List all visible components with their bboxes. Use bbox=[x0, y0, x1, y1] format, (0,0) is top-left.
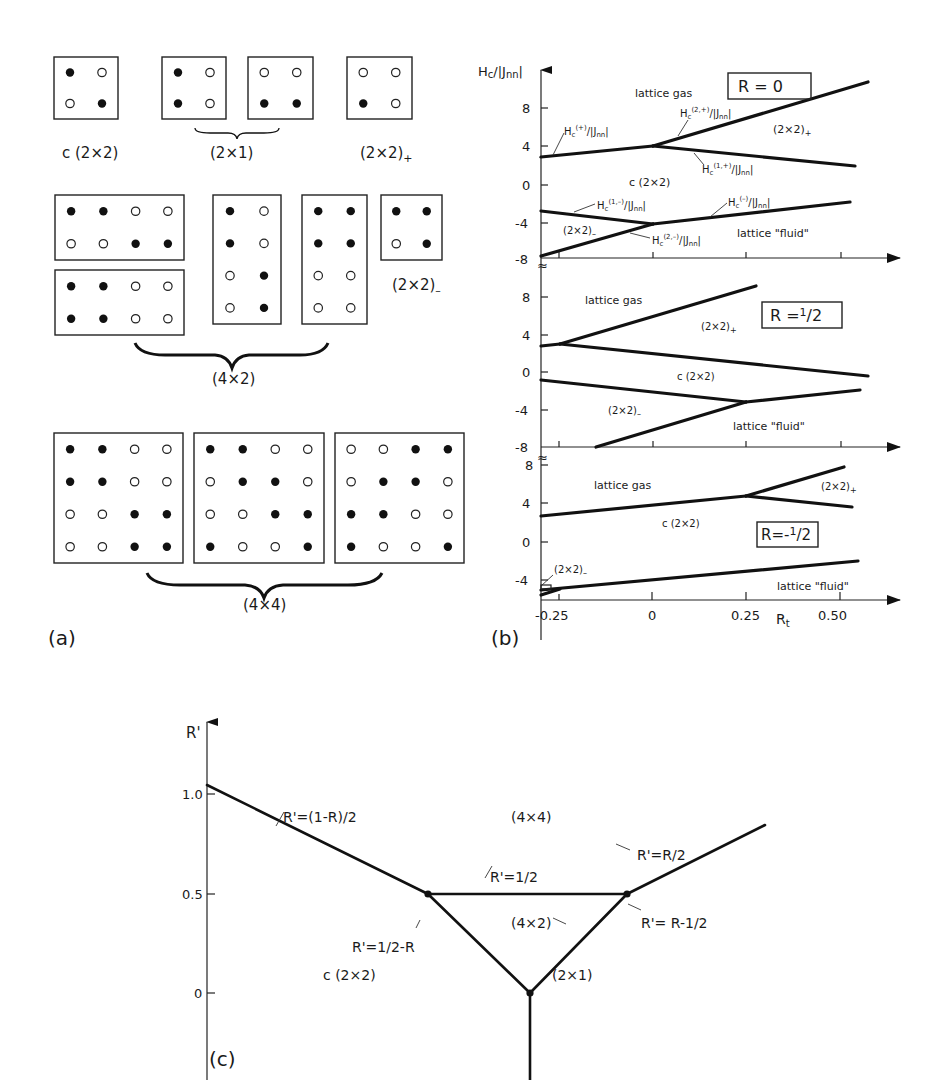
svg-text:lattice gas: lattice gas bbox=[635, 87, 693, 100]
filled-site-icon bbox=[444, 543, 452, 551]
empty-site-icon bbox=[444, 478, 452, 486]
svg-text:Hc(1,–)/|Jnn|: Hc(1,–)/|Jnn| bbox=[597, 198, 646, 213]
empty-site-icon bbox=[98, 510, 106, 518]
svg-text:4: 4 bbox=[522, 328, 530, 343]
filled-site-icon bbox=[347, 543, 355, 551]
svg-text:lattice "fluid": lattice "fluid" bbox=[737, 227, 809, 240]
svg-text:lattice "fluid": lattice "fluid" bbox=[733, 420, 805, 433]
empty-site-icon bbox=[411, 543, 419, 551]
svg-text:Hc(+)/|Jnn|: Hc(+)/|Jnn| bbox=[564, 124, 609, 139]
lattice-box-4x2 bbox=[55, 270, 184, 335]
empty-site-icon bbox=[392, 68, 400, 76]
filled-site-icon bbox=[67, 282, 75, 290]
svg-text:-4: -4 bbox=[515, 573, 528, 588]
filled-site-icon bbox=[347, 510, 355, 518]
svg-text:lattice gas: lattice gas bbox=[594, 479, 652, 492]
empty-site-icon bbox=[163, 478, 171, 486]
empty-site-icon bbox=[239, 510, 247, 518]
empty-site-icon bbox=[206, 68, 214, 76]
brace-4x4 bbox=[147, 573, 382, 598]
empty-site-icon bbox=[164, 315, 172, 323]
svg-text:Hc(2,–)/|Jnn|: Hc(2,–)/|Jnn| bbox=[652, 233, 701, 248]
lattice-box-2x1 bbox=[162, 57, 226, 119]
svg-text:≈: ≈ bbox=[537, 258, 548, 273]
svg-text:8: 8 bbox=[522, 101, 530, 116]
svg-text:8: 8 bbox=[525, 458, 533, 473]
svg-text:R'= R-1/2: R'= R-1/2 bbox=[641, 915, 708, 931]
empty-site-icon bbox=[130, 445, 138, 453]
filled-site-icon bbox=[99, 207, 107, 215]
lattice-box-2x1 bbox=[248, 57, 313, 119]
lattice-box-4x2 bbox=[302, 195, 367, 324]
filled-site-icon bbox=[304, 543, 312, 551]
empty-site-icon bbox=[98, 543, 106, 551]
filled-site-icon bbox=[423, 207, 431, 215]
empty-site-icon bbox=[239, 543, 247, 551]
empty-site-icon bbox=[359, 68, 367, 76]
filled-site-icon bbox=[226, 207, 234, 215]
empty-site-icon bbox=[66, 543, 74, 551]
filled-site-icon bbox=[66, 478, 74, 486]
filled-site-icon bbox=[271, 478, 279, 486]
svg-text:-8: -8 bbox=[515, 252, 528, 267]
label-4x2: (4×2) bbox=[212, 370, 255, 388]
filled-site-icon bbox=[131, 240, 139, 248]
empty-site-icon bbox=[293, 68, 301, 76]
lattice-box-2x2-minus bbox=[381, 195, 442, 260]
svg-text:0.5: 0.5 bbox=[182, 887, 203, 902]
filled-site-icon bbox=[260, 99, 268, 107]
empty-site-icon bbox=[392, 99, 400, 107]
filled-site-icon bbox=[423, 240, 431, 248]
svg-text:0.25: 0.25 bbox=[731, 608, 760, 623]
svg-text:-0.25: -0.25 bbox=[535, 608, 569, 623]
panel-b: Hc/|Jnn| 8 4 0 -4 -8 ≈ R = 0 lattice gas… bbox=[478, 64, 900, 650]
svg-text:lattice gas: lattice gas bbox=[585, 294, 643, 307]
filled-site-icon bbox=[99, 282, 107, 290]
filled-site-icon bbox=[98, 478, 106, 486]
svg-text:-4: -4 bbox=[515, 216, 528, 231]
filled-site-icon bbox=[239, 478, 247, 486]
empty-site-icon bbox=[271, 445, 279, 453]
filled-site-icon bbox=[99, 315, 107, 323]
filled-site-icon bbox=[314, 239, 322, 247]
filled-site-icon bbox=[260, 304, 268, 312]
empty-site-icon bbox=[164, 282, 172, 290]
svg-text:0: 0 bbox=[522, 535, 530, 550]
filled-site-icon bbox=[174, 99, 182, 107]
empty-site-icon bbox=[131, 282, 139, 290]
filled-site-icon bbox=[379, 510, 387, 518]
filled-site-icon bbox=[359, 99, 367, 107]
filled-site-icon bbox=[67, 207, 75, 215]
svg-text:0.50: 0.50 bbox=[818, 608, 847, 623]
svg-text:(2×2)–: (2×2)– bbox=[554, 564, 587, 578]
svg-text:≈: ≈ bbox=[537, 450, 548, 465]
empty-site-icon bbox=[131, 315, 139, 323]
empty-site-icon bbox=[131, 207, 139, 215]
panel-c-label: (c) bbox=[209, 1047, 236, 1071]
filled-site-icon bbox=[164, 240, 172, 248]
svg-text:(2×2)+: (2×2)+ bbox=[821, 481, 857, 495]
empty-site-icon bbox=[347, 271, 355, 279]
lattice-box-4x2 bbox=[213, 195, 281, 324]
panel-a-label: (a) bbox=[48, 626, 76, 650]
svg-text:(2×2)+: (2×2)+ bbox=[701, 321, 737, 335]
filled-site-icon bbox=[163, 543, 171, 551]
region-4x2: (4×2) bbox=[511, 915, 551, 931]
empty-site-icon bbox=[163, 445, 171, 453]
empty-site-icon bbox=[260, 207, 268, 215]
filled-site-icon bbox=[174, 68, 182, 76]
filled-site-icon bbox=[66, 445, 74, 453]
svg-text:4: 4 bbox=[522, 496, 530, 511]
tag-r-minus-half: R=-1/2 bbox=[761, 525, 811, 544]
svg-text:c (2×2): c (2×2) bbox=[662, 518, 700, 529]
svg-text:1.0: 1.0 bbox=[182, 787, 203, 802]
svg-text:8: 8 bbox=[522, 290, 530, 305]
empty-site-icon bbox=[314, 271, 322, 279]
y-axis-label-c: R' bbox=[186, 724, 201, 742]
svg-text:-4: -4 bbox=[515, 403, 528, 418]
empty-site-icon bbox=[130, 478, 138, 486]
brace-2x1 bbox=[195, 128, 279, 139]
lattice-box-c(2x2) bbox=[54, 57, 118, 119]
filled-site-icon bbox=[67, 315, 75, 323]
label-2x2-minus: (2×2)– bbox=[392, 276, 441, 297]
